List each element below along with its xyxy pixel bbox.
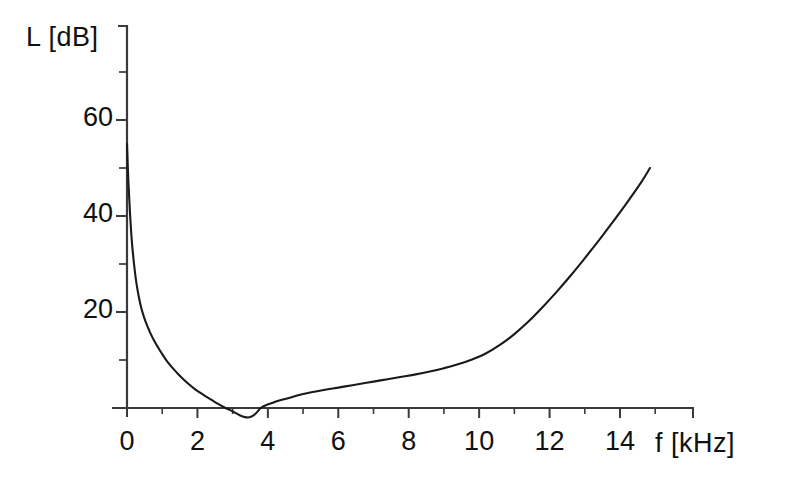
x-tick-label: 4 — [248, 426, 288, 457]
y-axis-label: L [dB] — [26, 22, 99, 53]
x-tick-label: 14 — [600, 426, 640, 457]
x-tick-label: 6 — [318, 426, 358, 457]
x-tick-label: 2 — [177, 426, 217, 457]
chart-figure: L [dB] f [kHz] 20406002468101214 — [0, 0, 792, 490]
x-tick-label: 12 — [530, 426, 570, 457]
x-tick-label: 8 — [389, 426, 429, 457]
y-tick-marks — [116, 72, 127, 360]
y-tick-label: 40 — [53, 198, 113, 229]
x-tick-label: 0 — [107, 426, 147, 457]
y-tick-label: 20 — [53, 294, 113, 325]
x-tick-label: 10 — [459, 426, 499, 457]
x-axis-label: f [kHz] — [655, 428, 735, 459]
plot-canvas — [0, 0, 792, 490]
response-curve — [127, 144, 650, 417]
y-tick-label: 60 — [53, 102, 113, 133]
